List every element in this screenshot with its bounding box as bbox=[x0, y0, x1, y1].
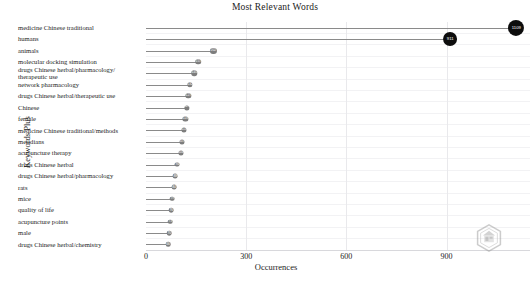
horizontal-gridline bbox=[146, 67, 530, 68]
lollipop-dot: 107 bbox=[179, 139, 184, 144]
category-label: rats bbox=[18, 184, 142, 191]
lollipop-stem bbox=[146, 165, 177, 166]
lollipop-dot: 157 bbox=[196, 59, 202, 65]
horizontal-gridline bbox=[146, 158, 530, 159]
lollipop-stem bbox=[146, 73, 194, 74]
lollipop-stem bbox=[146, 142, 182, 143]
lollipop-dot: 66 bbox=[166, 242, 171, 247]
lollipop-dot: 84 bbox=[172, 185, 177, 190]
category-label: humans bbox=[18, 35, 142, 42]
lollipop-dot: 70 bbox=[167, 231, 172, 236]
lollipop-stem bbox=[146, 85, 190, 86]
lollipop-stem bbox=[146, 119, 185, 120]
plot-area: 1109911202157145132127123118114107104948… bbox=[146, 22, 530, 250]
horizontal-gridline bbox=[146, 204, 530, 205]
lollipop-stem bbox=[146, 233, 169, 234]
horizontal-gridline bbox=[146, 170, 530, 171]
lollipop-dot: 911 bbox=[443, 32, 457, 46]
lollipop-dot: 94 bbox=[175, 162, 180, 167]
lollipop-dot: 76 bbox=[169, 208, 174, 213]
category-label: network pharmacology bbox=[18, 81, 142, 88]
horizontal-gridline bbox=[146, 113, 530, 114]
x-axis-tick-label: 300 bbox=[240, 252, 252, 261]
horizontal-gridline bbox=[146, 227, 530, 228]
x-axis-tick-label: 0 bbox=[144, 252, 148, 261]
lollipop-stem bbox=[146, 153, 181, 154]
lollipop-stem bbox=[146, 199, 172, 200]
vertical-gridline bbox=[246, 22, 247, 250]
horizontal-gridline bbox=[146, 124, 530, 125]
lollipop-stem bbox=[146, 39, 450, 40]
lollipop-stem bbox=[146, 96, 188, 97]
vertical-gridline bbox=[447, 22, 448, 250]
horizontal-gridline bbox=[146, 215, 530, 216]
category-label: male bbox=[18, 229, 142, 236]
lollipop-stem bbox=[146, 28, 516, 29]
lollipop-stem bbox=[146, 62, 198, 63]
category-label: molecular docking simulation bbox=[18, 58, 142, 65]
lollipop-stem bbox=[146, 51, 213, 52]
horizontal-gridline bbox=[146, 44, 530, 45]
lollipop-dot: 202 bbox=[210, 47, 216, 53]
lollipop-dot: 123 bbox=[184, 105, 189, 110]
x-axis-title: Occurrences bbox=[0, 262, 532, 272]
category-label: quality of life bbox=[18, 206, 142, 213]
category-label: drugs Chinese herbal/therapeutic use bbox=[18, 92, 142, 99]
lollipop-stem bbox=[146, 176, 175, 177]
lollipop-dot: 79 bbox=[170, 196, 175, 201]
lollipop-dot: 132 bbox=[187, 82, 192, 87]
vertical-gridline bbox=[346, 22, 347, 250]
category-label: Chinese bbox=[18, 104, 142, 111]
horizontal-gridline bbox=[146, 79, 530, 80]
lollipop-stem bbox=[146, 187, 174, 188]
category-label: drugs Chinese herbal bbox=[18, 161, 142, 168]
lollipop-stem bbox=[146, 222, 170, 223]
lollipop-dot: 114 bbox=[182, 128, 187, 133]
horizontal-gridline bbox=[146, 238, 530, 239]
chart-title: Most Relevant Words bbox=[0, 2, 532, 12]
horizontal-gridline bbox=[146, 181, 530, 182]
lollipop-stem bbox=[146, 130, 184, 131]
horizontal-gridline bbox=[146, 101, 530, 102]
horizontal-gridline bbox=[146, 90, 530, 91]
x-axis-tick-label: 900 bbox=[441, 252, 453, 261]
horizontal-gridline bbox=[146, 147, 530, 148]
x-axis-tick-label: 600 bbox=[340, 252, 352, 261]
lollipop-stem bbox=[146, 244, 168, 245]
lollipop-dot: 145 bbox=[192, 71, 197, 76]
category-label: drugs Chinese herbal/chemistry bbox=[18, 241, 142, 248]
category-label: animals bbox=[18, 47, 142, 54]
category-label: mice bbox=[18, 195, 142, 202]
hexagon-logo-watermark bbox=[474, 222, 504, 254]
lollipop-dot: 127 bbox=[186, 93, 191, 98]
lollipop-dot: 118 bbox=[183, 116, 188, 121]
category-label: female bbox=[18, 115, 142, 122]
lollipop-stem bbox=[146, 210, 171, 211]
category-label: acupuncture points bbox=[18, 218, 142, 225]
category-label: medicine Chinese traditional bbox=[18, 24, 142, 31]
x-axis-line bbox=[146, 250, 530, 251]
category-label: acupuncture therapy bbox=[18, 149, 142, 156]
category-label: drugs Chinese herbal/pharmacology/ thera… bbox=[18, 66, 142, 81]
horizontal-gridline bbox=[146, 33, 530, 34]
lollipop-dot: 104 bbox=[178, 151, 183, 156]
chart-figure: Most Relevant Words Keywords Plus medici… bbox=[0, 0, 532, 284]
lollipop-dot: 73 bbox=[168, 219, 173, 224]
category-label: drugs Chinese herbal/pharmacology bbox=[18, 172, 142, 179]
horizontal-gridline bbox=[146, 193, 530, 194]
horizontal-gridline bbox=[146, 136, 530, 137]
category-label: medicine Chinese traditional/meihods bbox=[18, 127, 142, 134]
lollipop-dot: 88 bbox=[173, 173, 178, 178]
horizontal-gridline bbox=[146, 56, 530, 57]
lollipop-stem bbox=[146, 108, 187, 109]
category-label: meridians bbox=[18, 138, 142, 145]
category-label-column: medicine Chinese traditionalhumansanimal… bbox=[18, 22, 144, 250]
